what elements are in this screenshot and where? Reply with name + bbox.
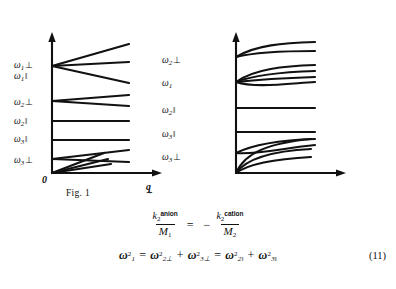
equation-1-left-numerator: k2anion (150, 211, 181, 224)
figure-2-plot (198, 18, 392, 190)
figure-1-origin-label: 0 (42, 174, 47, 185)
equation-2: ω21=ω22⊥+ω23⊥=ω22‖+ω23‖ (11) (0, 242, 396, 268)
dispersion-branches (236, 42, 315, 173)
y-label-fig2-omega-3-parallel: ω3‖ (162, 130, 175, 141)
y-label-fig2-omega-2-perp: ω2⊥ (162, 56, 181, 67)
branch-omega3-perp-lower (52, 159, 129, 162)
y-label-fig2-omega-1: ω1 (162, 79, 172, 90)
equation-number: (11) (369, 250, 386, 261)
branch-fig2-omega1-d (236, 82, 315, 85)
equation-1-right-denominator: M2 (221, 224, 240, 239)
branch-omega1-par-lower (52, 66, 129, 83)
y-label-fig2-omega-3-perp: ω3⊥ (162, 153, 181, 164)
dispersion-branches (52, 44, 129, 173)
figure-1-svg (4, 18, 194, 190)
y-axis-arrowhead (232, 32, 239, 42)
equations-block: k2anion M1 = − k2cation M2 ω21=ω22⊥+ω23⊥… (0, 208, 396, 268)
figure-1-x-axis-tilde: ∼ (146, 188, 153, 197)
x-axis-arrowhead (152, 169, 162, 176)
figure-2: ω2⊥ ω1 ω2‖ ω3‖ ω3⊥ (198, 18, 392, 208)
y-label-fig2-omega-2-parallel: ω2‖ (162, 106, 175, 117)
equation-1-right-fraction: k2cation M2 (213, 211, 246, 239)
equation-1-left-fraction: k2anion M1 (150, 211, 181, 239)
equation-1-minus: − (204, 218, 211, 233)
figure-1-caption: Fig. 1 (66, 188, 90, 198)
equation-1-equals: = (187, 218, 194, 233)
figure-1-plot (4, 18, 194, 190)
equation-1-left-denominator: M1 (156, 224, 175, 239)
equation-1: k2anion M1 = − k2cation M2 (0, 208, 396, 242)
y-axis-arrowhead (48, 32, 55, 42)
branch-omega2-perp-upper (52, 95, 129, 101)
figure-2-svg (198, 18, 392, 190)
x-axis-arrowhead (336, 169, 346, 176)
branch-omega2-perp-lower (52, 101, 129, 106)
equation-2-expression: ω21=ω22⊥+ω23⊥=ω22‖+ω23‖ (119, 248, 277, 263)
equation-1-right-numerator: k2cation (213, 211, 246, 224)
paper-page: ω1⊥ ω1‖ ω2⊥ ω2‖ ω3‖ ω3⊥ (0, 0, 396, 289)
